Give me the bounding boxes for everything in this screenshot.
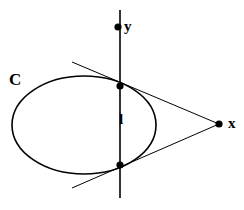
geometry-figure: C y x l xyxy=(0,0,244,210)
tangency-point-lower xyxy=(116,161,123,168)
conic-curve-c xyxy=(12,76,156,174)
point-label-y: y xyxy=(124,19,132,34)
tangent-line-lower xyxy=(72,124,219,188)
point-y-marker xyxy=(114,23,121,30)
figure-canvas xyxy=(0,0,244,210)
line-label-l: l xyxy=(119,112,123,127)
point-x-marker xyxy=(215,120,222,127)
point-label-x: x xyxy=(228,116,236,131)
tangent-line-upper xyxy=(72,62,219,124)
conic-label-c: C xyxy=(9,71,21,88)
tangency-point-upper xyxy=(116,82,123,89)
